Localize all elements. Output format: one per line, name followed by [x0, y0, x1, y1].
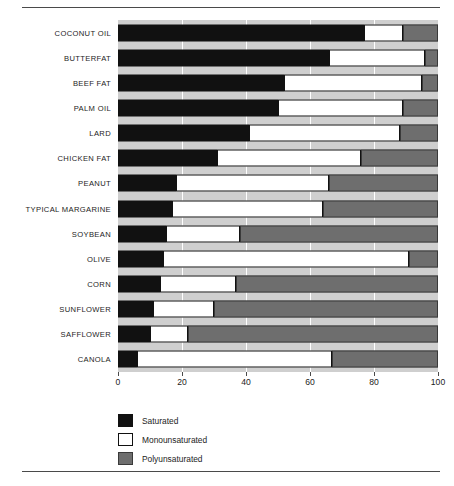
stacked-bar [118, 74, 438, 91]
bar-segment-monounsaturated [163, 250, 409, 267]
chart-legend: SaturatedMonounsaturatedPolyunsaturated [118, 411, 368, 468]
legend-label: Polyunsaturated [142, 454, 203, 464]
legend-item[interactable]: Polyunsaturated [118, 449, 368, 468]
bar-segment-polyunsaturated [361, 150, 438, 167]
top-divider-rule [22, 7, 440, 8]
x-tick-0 [118, 372, 119, 376]
bar-row: OLIVE [118, 246, 438, 271]
bar-segment-polyunsaturated [422, 74, 438, 91]
stacked-bar [118, 275, 438, 292]
bar-segment-polyunsaturated [425, 49, 438, 66]
x-tick-label: 40 [241, 377, 251, 387]
category-label: TYPICAL MARGARINE [26, 204, 111, 213]
stacked-bar [118, 250, 438, 267]
plot-area: COCONUT OILBUTTERFATBEEF FATPALM OILLARD… [118, 20, 438, 372]
category-label: LARD [89, 129, 111, 138]
stacked-bar [118, 125, 438, 142]
bar-segment-polyunsaturated [323, 200, 438, 217]
category-label: SUNFLOWER [59, 305, 111, 314]
x-tick-100 [438, 372, 439, 376]
legend-item[interactable]: Monounsaturated [118, 430, 368, 449]
bar-segment-polyunsaturated [214, 301, 438, 318]
bar-segment-monounsaturated [160, 275, 237, 292]
bar-segment-monounsaturated [150, 326, 188, 343]
x-tick-40 [246, 372, 247, 376]
bar-row: BUTTERFAT [118, 45, 438, 70]
bar-segment-monounsaturated [249, 125, 399, 142]
bar-segment-polyunsaturated [236, 275, 438, 292]
x-tick-label: 60 [305, 377, 315, 387]
fat-composition-chart-figure: COCONUT OILBUTTERFATBEEF FATPALM OILLARD… [0, 0, 454, 486]
bar-segment-monounsaturated [176, 175, 330, 192]
bar-segment-monounsaturated [284, 74, 422, 91]
category-label: PEANUT [78, 179, 111, 188]
x-tick-label: 80 [369, 377, 379, 387]
legend-swatch-monounsaturated [118, 433, 133, 446]
bar-segment-polyunsaturated [332, 351, 438, 368]
bar-row: SAFFLOWER [118, 322, 438, 347]
x-tick-80 [374, 372, 375, 376]
bar-segment-monounsaturated [137, 351, 332, 368]
bar-row: TYPICAL MARGARINE [118, 196, 438, 221]
legend-label: Saturated [142, 416, 178, 426]
bar-segment-saturated [118, 275, 160, 292]
bottom-divider-rule [22, 471, 440, 472]
bar-row: PEANUT [118, 171, 438, 196]
legend-swatch-saturated [118, 414, 133, 427]
bar-segment-saturated [118, 125, 249, 142]
bar-segment-saturated [118, 301, 153, 318]
category-label: SOYBEAN [72, 229, 111, 238]
bar-segment-saturated [118, 150, 217, 167]
bar-segment-monounsaturated [278, 99, 403, 116]
bar-segment-polyunsaturated [403, 99, 438, 116]
bar-segment-saturated [118, 24, 364, 41]
bar-segment-polyunsaturated [400, 125, 438, 142]
bar-segment-monounsaturated [153, 301, 214, 318]
bar-row: BEEF FAT [118, 70, 438, 95]
stacked-bar [118, 24, 438, 41]
bar-row: SOYBEAN [118, 221, 438, 246]
stacked-bar [118, 225, 438, 242]
bar-row: CORN [118, 271, 438, 296]
bar-segment-polyunsaturated [240, 225, 438, 242]
x-axis: 020406080100 [118, 372, 438, 394]
bar-segment-saturated [118, 200, 172, 217]
bar-segment-saturated [118, 74, 284, 91]
stacked-bar [118, 301, 438, 318]
bar-segment-monounsaturated [172, 200, 322, 217]
category-label: CANOLA [78, 355, 111, 364]
category-label: COCONUT OIL [55, 28, 111, 37]
bar-segment-saturated [118, 175, 176, 192]
gridline-100 [438, 20, 439, 372]
legend-item[interactable]: Saturated [118, 411, 368, 430]
bar-segment-polyunsaturated [188, 326, 438, 343]
category-label: BEEF FAT [73, 78, 111, 87]
x-tick-label: 100 [431, 377, 445, 387]
category-label: CORN [87, 279, 111, 288]
bar-row: CHICKEN FAT [118, 146, 438, 171]
bar-segment-monounsaturated [166, 225, 240, 242]
category-label: SAFFLOWER [61, 330, 111, 339]
bar-segment-monounsaturated [329, 49, 425, 66]
stacked-bar [118, 150, 438, 167]
bar-row: COCONUT OIL [118, 20, 438, 45]
bar-segment-saturated [118, 351, 137, 368]
bar-segment-saturated [118, 326, 150, 343]
stacked-bar [118, 99, 438, 116]
bar-segment-polyunsaturated [329, 175, 438, 192]
stacked-bar [118, 326, 438, 343]
bar-segment-polyunsaturated [403, 24, 438, 41]
category-label: PALM OIL [74, 103, 111, 112]
bar-segment-saturated [118, 250, 163, 267]
legend-label: Monounsaturated [142, 435, 207, 445]
stacked-bar [118, 200, 438, 217]
legend-swatch-polyunsaturated [118, 452, 133, 465]
stacked-bar [118, 351, 438, 368]
x-tick-label: 0 [116, 377, 121, 387]
bar-row: SUNFLOWER [118, 297, 438, 322]
category-label: CHICKEN FAT [58, 154, 112, 163]
category-label: OLIVE [87, 254, 111, 263]
x-tick-20 [182, 372, 183, 376]
bar-row: PALM OIL [118, 95, 438, 120]
stacked-bar [118, 175, 438, 192]
